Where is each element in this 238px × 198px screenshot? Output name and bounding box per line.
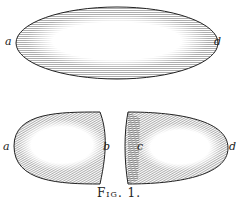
label-whole-d: d (214, 36, 221, 47)
figure: a d a b c d Fig. 1. (0, 0, 238, 198)
label-right-half-d: d (229, 141, 236, 152)
label-left-half-b: b (103, 141, 110, 152)
label-right-half-c: c (137, 141, 143, 152)
figure-caption: Fig. 1. (0, 186, 238, 198)
left-half (14, 112, 106, 184)
figure-drawing (0, 0, 238, 198)
whole-ellipse (16, 7, 218, 79)
label-left-half-a: a (3, 141, 10, 152)
label-whole-a: a (5, 36, 12, 47)
